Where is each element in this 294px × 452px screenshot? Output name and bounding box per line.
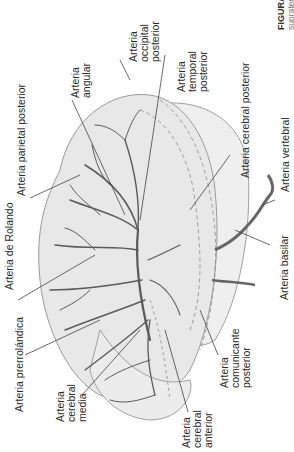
label-arteria-comunicante-posterior: Arteriacomunicanteposterior: [219, 328, 252, 388]
label-arteria-cerebral-media: Arteriacerebralmedia: [55, 384, 88, 422]
figure-caption-title: FIGURA: [276, 0, 286, 30]
label-arteria-cerebral-posterior: Arteria cerebral posterior: [240, 62, 251, 178]
label-arteria-angular: Arteriaangular: [70, 63, 92, 98]
label-arteria-prerrolandica: Arteria prerrolándica: [14, 317, 25, 412]
label-arteria-parietal-posterior: Arteria parietal posterior: [16, 84, 27, 196]
brain-arteries-figure: Arteria parietal posterior Arteriaangula…: [0, 0, 294, 452]
label-arteria-basilar: Arteria basilar: [279, 235, 290, 300]
label-arteria-de-rolando: Arteria de Rolando: [4, 202, 15, 290]
label-arteria-temporal-posterior: Arteriatemporalposterior: [176, 51, 209, 92]
label-arteria-vertebral: Arteria vertebral: [280, 117, 291, 192]
label-arteria-cerebral-anterior: Arteriacerebralanterior: [181, 410, 214, 448]
figure-caption-subtitle: supraten: [286, 0, 294, 30]
label-arteria-occipital-posterior: Arteriaoccipitalposterior: [128, 21, 161, 62]
